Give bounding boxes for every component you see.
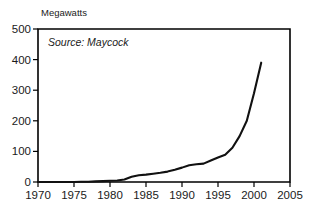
- chart-figure: Megawatts 0 100 200 300 400 500: [0, 0, 318, 216]
- x-tick-label-1970: 1970: [25, 189, 51, 201]
- y-tick-label-500: 500: [12, 23, 31, 35]
- y-tick-label-0: 0: [25, 176, 31, 188]
- y-axis-title: Megawatts: [41, 7, 87, 18]
- source-annotation: Source: Maycock: [48, 36, 129, 48]
- chart-background: [0, 0, 318, 216]
- line-chart: Megawatts 0 100 200 300 400 500: [0, 0, 318, 216]
- x-tick-label-1980: 1980: [97, 189, 123, 201]
- x-tick-label-2000: 2000: [241, 189, 267, 201]
- y-tick-label-200: 200: [12, 115, 31, 127]
- x-tick-label-1990: 1990: [169, 189, 195, 201]
- y-tick-label-100: 100: [12, 145, 31, 157]
- x-tick-label-1995: 1995: [205, 189, 231, 201]
- y-tick-label-400: 400: [12, 54, 31, 66]
- x-tick-label-1985: 1985: [133, 189, 159, 201]
- y-tick-label-300: 300: [12, 84, 31, 96]
- x-tick-label-1975: 1975: [61, 189, 87, 201]
- x-tick-label-2005: 2005: [277, 189, 303, 201]
